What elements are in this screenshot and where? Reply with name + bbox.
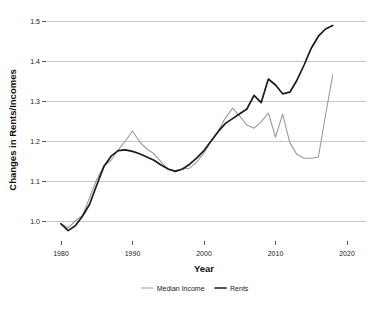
x-axis-title: Year [194,263,214,274]
x-axis-ticks: 19801990200020102020 [53,241,355,257]
y-tick-label: 1.0 [30,218,40,225]
chart-legend: Median IncomeRents [142,285,249,292]
y-tick-label: 1.3 [30,98,40,105]
x-tick-label: 2020 [339,250,355,257]
series-line-rents [61,25,333,230]
y-tick-label: 1.2 [30,138,40,145]
y-tick-label: 1.5 [30,18,40,25]
x-tick-label: 1990 [125,250,141,257]
y-tick-label: 1.1 [30,178,40,185]
y-axis-title: Changes in Rents/Incomes [7,69,18,190]
series-line-median-income [61,75,333,228]
data-series [61,25,333,230]
y-axis-ticks: 1.01.11.21.31.41.5 [30,18,45,225]
x-tick-label: 2010 [268,250,284,257]
line-chart: 1.01.11.21.31.41.5 19801990200020102020 … [0,0,390,312]
legend-label-median-income: Median Income [157,285,205,292]
x-tick-label: 2000 [196,250,212,257]
legend-label-rents: Rents [230,285,249,292]
chart-container: 1.01.11.21.31.41.5 19801990200020102020 … [0,0,390,312]
x-tick-label: 1980 [53,250,69,257]
y-tick-label: 1.4 [30,58,40,65]
